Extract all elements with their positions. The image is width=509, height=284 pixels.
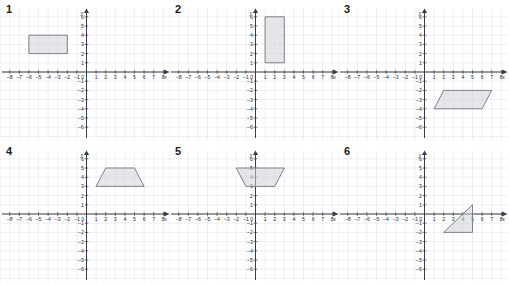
- svg-text:–8: –8: [7, 74, 13, 80]
- svg-text:–8: –8: [176, 216, 182, 222]
- graph-number-label: 2: [175, 4, 181, 15]
- svg-text:–4: –4: [247, 106, 253, 112]
- graph-number-label: 1: [6, 4, 12, 15]
- svg-text:–5: –5: [374, 74, 380, 80]
- svg-text:2: 2: [419, 193, 422, 199]
- svg-text:x: x: [332, 74, 336, 80]
- svg-text:4: 4: [123, 216, 126, 222]
- coordinate-plane-1: –8–7–6–5–4–3–2–112345678–6–5–4–3–2–11234…: [0, 8, 170, 140]
- svg-text:–6: –6: [247, 124, 253, 130]
- graph-number-label: 4: [6, 146, 12, 157]
- svg-text:–7: –7: [16, 74, 22, 80]
- svg-text:5: 5: [419, 23, 422, 29]
- svg-text:2: 2: [81, 193, 84, 199]
- svg-text:7: 7: [321, 74, 324, 80]
- svg-text:1: 1: [264, 216, 267, 222]
- svg-text:–4: –4: [416, 248, 422, 254]
- svg-text:7: 7: [321, 216, 324, 222]
- svg-text:–5: –5: [247, 257, 253, 263]
- svg-text:2: 2: [273, 74, 276, 80]
- svg-text:3: 3: [81, 41, 84, 47]
- svg-text:4: 4: [123, 74, 126, 80]
- graph-number-label: 5: [175, 146, 181, 157]
- svg-text:3: 3: [419, 41, 422, 47]
- svg-text:–5: –5: [247, 115, 253, 121]
- svg-text:4: 4: [292, 74, 295, 80]
- svg-text:–8: –8: [345, 216, 351, 222]
- svg-text:–2: –2: [233, 74, 239, 80]
- svg-text:–5: –5: [416, 257, 422, 263]
- svg-text:4: 4: [419, 32, 422, 38]
- axis-names: xy: [418, 10, 506, 81]
- svg-text:5: 5: [133, 74, 136, 80]
- svg-text:–2: –2: [416, 229, 422, 235]
- svg-text:x: x: [332, 216, 336, 222]
- svg-text:–6: –6: [26, 216, 32, 222]
- svg-text:6: 6: [481, 216, 484, 222]
- svg-text:3: 3: [283, 216, 286, 222]
- svg-text:–3: –3: [393, 74, 399, 80]
- svg-text:–5: –5: [374, 216, 380, 222]
- svg-text:–6: –6: [195, 74, 201, 80]
- svg-text:0: 0: [419, 216, 422, 222]
- svg-text:6: 6: [143, 74, 146, 80]
- graph-number-label: 6: [344, 146, 350, 157]
- svg-text:0: 0: [81, 216, 84, 222]
- svg-text:0: 0: [419, 74, 422, 80]
- svg-text:–6: –6: [78, 124, 84, 130]
- svg-text:2: 2: [104, 216, 107, 222]
- svg-text:2: 2: [250, 51, 253, 57]
- svg-text:3: 3: [81, 183, 84, 189]
- svg-text:2: 2: [104, 74, 107, 80]
- svg-text:–5: –5: [36, 74, 42, 80]
- svg-text:2: 2: [419, 51, 422, 57]
- svg-text:x: x: [163, 74, 167, 80]
- svg-text:–2: –2: [78, 229, 84, 235]
- svg-text:y: y: [249, 10, 253, 16]
- svg-text:5: 5: [250, 23, 253, 29]
- svg-text:3: 3: [452, 74, 455, 80]
- svg-text:–3: –3: [224, 74, 230, 80]
- svg-text:–2: –2: [64, 216, 70, 222]
- svg-text:–4: –4: [45, 74, 51, 80]
- svg-text:–2: –2: [233, 216, 239, 222]
- svg-text:–5: –5: [205, 216, 211, 222]
- svg-text:2: 2: [81, 51, 84, 57]
- svg-text:–8: –8: [176, 74, 182, 80]
- graph-panel-6: 6–8–7–6–5–4–3–2–112345678–6–5–4–3–2–1123…: [338, 142, 508, 284]
- svg-text:–6: –6: [26, 74, 32, 80]
- svg-text:3: 3: [250, 41, 253, 47]
- svg-text:–3: –3: [247, 239, 253, 245]
- svg-text:–6: –6: [78, 266, 84, 272]
- svg-text:–2: –2: [78, 87, 84, 93]
- svg-text:0: 0: [81, 74, 84, 80]
- svg-text:–5: –5: [78, 257, 84, 263]
- svg-text:–5: –5: [78, 115, 84, 121]
- svg-text:5: 5: [133, 216, 136, 222]
- plotted-right-triangle: [444, 205, 473, 233]
- svg-text:7: 7: [490, 74, 493, 80]
- svg-text:2: 2: [442, 216, 445, 222]
- svg-text:x: x: [163, 216, 167, 222]
- svg-text:–4: –4: [383, 74, 389, 80]
- svg-text:5: 5: [302, 216, 305, 222]
- svg-text:4: 4: [292, 216, 295, 222]
- svg-text:–3: –3: [416, 97, 422, 103]
- plotted-trapezoid: [236, 168, 284, 186]
- svg-text:3: 3: [452, 216, 455, 222]
- axis-names: xy: [80, 10, 168, 81]
- svg-text:1: 1: [250, 202, 253, 208]
- svg-text:–8: –8: [345, 74, 351, 80]
- svg-text:4: 4: [461, 74, 464, 80]
- svg-text:5: 5: [81, 23, 84, 29]
- svg-text:–6: –6: [364, 74, 370, 80]
- svg-text:–6: –6: [364, 216, 370, 222]
- svg-text:–7: –7: [354, 74, 360, 80]
- svg-text:–4: –4: [78, 106, 84, 112]
- svg-text:7: 7: [152, 74, 155, 80]
- svg-text:4: 4: [81, 32, 84, 38]
- svg-text:y: y: [249, 152, 253, 158]
- svg-text:–4: –4: [214, 74, 220, 80]
- svg-text:–3: –3: [224, 216, 230, 222]
- svg-text:1: 1: [419, 202, 422, 208]
